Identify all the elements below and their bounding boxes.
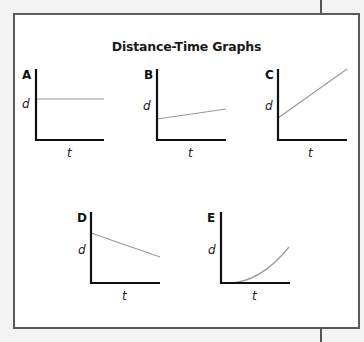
graph-b: B d t — [143, 68, 226, 160]
graph-b-xlabel: t — [188, 146, 194, 160]
graph-label-e: E — [207, 211, 215, 225]
graph-label-c: C — [265, 68, 274, 82]
graph-b-plot-line — [157, 109, 226, 119]
graph-e-xlabel: t — [252, 289, 258, 303]
graph-e: E d t — [207, 211, 290, 303]
graph-d-ylabel: d — [78, 243, 86, 257]
graph-c-ylabel: d — [265, 99, 273, 113]
graph-d-plot-line — [91, 233, 160, 257]
graph-c-axes — [278, 69, 347, 140]
graph-b-ylabel: d — [143, 99, 151, 113]
graph-d-axes — [91, 212, 160, 283]
graph-e-axes — [221, 212, 290, 283]
graph-a-axes — [36, 69, 104, 140]
graph-e-plot-curve — [228, 247, 289, 283]
graph-d-xlabel: t — [122, 289, 128, 303]
graph-label-a: A — [22, 68, 32, 82]
graph-c: C d t — [265, 68, 347, 160]
graph-c-xlabel: t — [308, 146, 314, 160]
graph-label-d: D — [77, 211, 87, 225]
graph-e-ylabel: d — [208, 243, 216, 257]
graph-a-xlabel: t — [67, 146, 73, 160]
graphs-canvas: A d t B d t C d t D d t E d t — [0, 0, 364, 342]
graph-c-plot-line — [278, 69, 347, 118]
graph-a-ylabel: d — [22, 97, 30, 111]
graph-d: D d t — [77, 211, 160, 303]
graph-label-b: B — [144, 68, 153, 82]
graph-b-axes — [157, 69, 226, 140]
graph-a: A d t — [22, 68, 104, 160]
